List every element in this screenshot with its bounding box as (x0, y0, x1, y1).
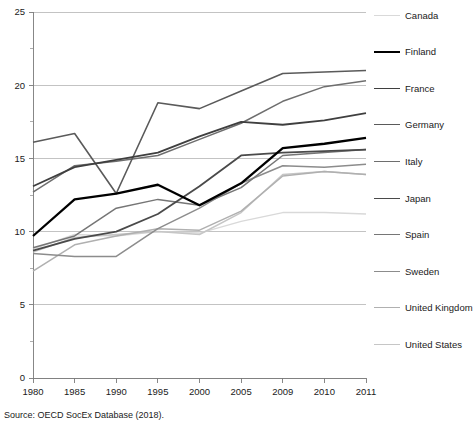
x-axis-label-1985: 1985 (64, 386, 85, 397)
y-axis-label-0: 0 (20, 372, 25, 383)
legend-item-label: Italy (405, 156, 422, 167)
line-chart-plot: 0510152025198019851990199520002005200920… (0, 0, 380, 400)
x-axis-label-2010: 2010 (314, 386, 335, 397)
legend-item-label: United States (405, 339, 462, 350)
legend-item-label: United Kingdom (405, 302, 473, 313)
legend-item-sweden[interactable]: Sweden (374, 264, 439, 278)
legend-swatch-icon (374, 307, 400, 308)
x-axis-label-2005: 2005 (231, 386, 252, 397)
legend-item-label: Germany (405, 119, 444, 130)
y-axis-label-10: 10 (14, 226, 25, 237)
legend-item-canada[interactable]: Canada (374, 8, 438, 22)
legend-swatch-icon (374, 271, 400, 272)
legend-swatch-icon (374, 161, 400, 162)
x-axis-label-2011: 2011 (356, 386, 376, 397)
legend-item-italy[interactable]: Italy (374, 154, 422, 168)
x-axis-label-1995: 1995 (147, 386, 168, 397)
legend-swatch-icon (374, 344, 400, 345)
chart-legend: CanadaFinlandFranceGermanyItalyJapanSpai… (374, 0, 472, 368)
source-note: Source: OECD SocEx Database (2018). (4, 410, 164, 420)
legend-item-label: France (405, 83, 435, 94)
legend-swatch-icon (374, 15, 400, 16)
legend-item-label: Sweden (405, 266, 439, 277)
y-axis-label-20: 20 (14, 80, 25, 91)
legend-item-france[interactable]: France (374, 81, 435, 95)
series-line-united-states (33, 172, 366, 253)
legend-swatch-icon (374, 51, 400, 53)
legend-item-united-states[interactable]: United States (374, 337, 462, 351)
x-axis-label-1990: 1990 (106, 386, 127, 397)
legend-swatch-icon (374, 234, 400, 235)
y-axis-label-25: 25 (14, 6, 25, 17)
series-line-france (33, 113, 366, 186)
x-axis-label-2009: 2009 (272, 386, 293, 397)
legend-item-united-kingdom[interactable]: United Kingdom (374, 301, 473, 315)
x-axis-label-2000: 2000 (189, 386, 210, 397)
legend-item-label: Finland (405, 46, 436, 57)
legend-item-label: Spain (405, 229, 429, 240)
legend-item-finland[interactable]: Finland (374, 45, 436, 59)
legend-item-label: Canada (405, 10, 438, 21)
legend-item-germany[interactable]: Germany (374, 118, 444, 132)
legend-item-spain[interactable]: Spain (374, 228, 429, 242)
legend-swatch-icon (374, 198, 400, 199)
legend-item-label: Japan (405, 193, 431, 204)
legend-swatch-icon (374, 88, 400, 89)
y-axis-label-5: 5 (20, 299, 25, 310)
y-axis-label-15: 15 (14, 153, 25, 164)
x-axis-label-1980: 1980 (22, 386, 43, 397)
legend-swatch-icon (374, 124, 400, 125)
legend-item-japan[interactable]: Japan (374, 191, 431, 205)
